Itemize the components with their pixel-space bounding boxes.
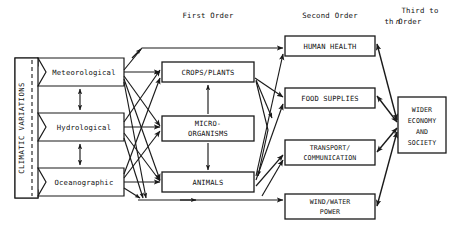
- label-human-health: HUMAN HEALTH: [303, 42, 356, 51]
- second-order-group: HUMAN HEALTH FOOD SUPPLIES TRANSPORT/ CO…: [285, 36, 375, 219]
- diagram-canvas: First Order Second Order Third to n th O…: [0, 0, 457, 234]
- header-third-order-line2: th Order: [384, 17, 422, 26]
- source-group: Meteorological Hydrological Oceanographi…: [38, 58, 124, 196]
- arrow-oceanographic-to-crops: [124, 78, 160, 174]
- third-order-group: WIDER ECONOMY AND SOCIETY: [398, 97, 446, 153]
- climatic-variations-bracket: CLIMATIC VARIATIONS: [15, 58, 38, 198]
- source-label-hydrological: Hydrological: [57, 123, 111, 132]
- arrow-bottom-to-transport: [262, 160, 283, 196]
- connectors-first-to-second-order: [255, 54, 283, 196]
- header-second-order: Second Order: [302, 11, 358, 20]
- box-transport-communication[interactable]: TRANSPORT/ COMMUNICATION: [285, 140, 375, 165]
- source-label-oceanographic: Oceanographic: [55, 178, 114, 187]
- label-transport-line1: TRANSPORT/: [310, 144, 351, 152]
- arrow-transport-wider-economy: [377, 128, 397, 152]
- label-wind-water-line1: WIND/WATER: [310, 198, 351, 206]
- label-wider-line3: AND: [416, 128, 428, 136]
- header-third-order-line1: Third to: [401, 6, 438, 15]
- arrow-meteorological-to-animals: [124, 79, 160, 180]
- column-headers: First Order Second Order Third to n th O…: [182, 6, 438, 26]
- label-crops-plants: CROPS/PLANTS: [181, 68, 234, 77]
- first-order-group: CROPS/PLANTS MICRO- ORGANISMS ANIMALS: [162, 62, 254, 192]
- source-box-oceanographic[interactable]: Oceanographic: [38, 168, 124, 196]
- label-transport-line2: COMMUNICATION: [304, 154, 357, 162]
- bracket-label: CLIMATIC VARIATIONS: [17, 82, 26, 174]
- label-animals: ANIMALS: [193, 178, 224, 187]
- source-box-meteorological[interactable]: Meteorological: [38, 58, 124, 86]
- arrow-meteorological-to-bottom-line: [124, 82, 146, 198]
- header-first-order: First Order: [182, 11, 233, 20]
- arrow-oceanographic-to-bottom-line: [124, 188, 140, 198]
- source-box-hydrological[interactable]: Hydrological: [38, 113, 124, 141]
- label-wider-line4: SOCIETY: [408, 139, 437, 147]
- label-wider-line2: ECONOMY: [408, 117, 437, 125]
- label-food-supplies: FOOD SUPPLIES: [301, 94, 358, 103]
- arrow-meteorological-to-micro: [124, 76, 160, 126]
- arrow-meteorological-to-human-health-head: [132, 49, 141, 58]
- box-wind-water-power[interactable]: WIND/WATER POWER: [285, 194, 375, 219]
- connectors-second-to-third-order: [377, 44, 397, 206]
- label-micro-organisms-line2: ORGANISMS: [188, 129, 228, 138]
- arrow-hydrological-to-animals: [124, 133, 160, 181]
- box-micro-organisms[interactable]: MICRO- ORGANISMS: [162, 116, 254, 141]
- arrow-wind-water-wider-economy: [377, 132, 397, 206]
- diagram-svg: First Order Second Order Third to n th O…: [0, 0, 457, 234]
- label-wind-water-line2: POWER: [320, 208, 340, 216]
- box-crops-plants[interactable]: CROPS/PLANTS: [162, 62, 254, 82]
- box-food-supplies[interactable]: FOOD SUPPLIES: [285, 88, 375, 108]
- arrow-hydrological-to-crops: [124, 70, 160, 122]
- label-micro-organisms-line1: MICRO-: [195, 119, 222, 128]
- source-label-meteorological: Meteorological: [52, 68, 115, 77]
- box-human-health[interactable]: HUMAN HEALTH: [285, 36, 375, 56]
- box-animals[interactable]: ANIMALS: [162, 172, 254, 192]
- label-wider-line1: WIDER: [412, 106, 432, 114]
- box-wider-economy-society[interactable]: WIDER ECONOMY AND SOCIETY: [398, 97, 446, 153]
